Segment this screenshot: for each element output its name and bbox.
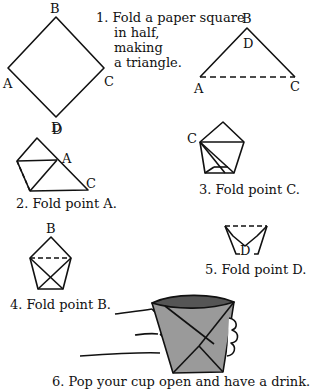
label-square-a: A (3, 77, 12, 90)
step2-caption: 2. Fold point A. (16, 197, 117, 211)
step1-line4: a triangle. (96, 55, 211, 70)
label-triangle-d: D (243, 37, 253, 50)
label-triangle-a: A (194, 82, 203, 95)
step5-caption: 5. Fold point D. (205, 263, 306, 277)
label-triangle-c: C (290, 80, 300, 93)
step3-figure (200, 122, 244, 173)
label-step2-a: A (62, 152, 71, 165)
label-step2-d: D (52, 123, 62, 136)
step1-caption: 1. Fold a paper square in half, making a… (96, 10, 211, 70)
label-step4-b: B (46, 222, 56, 235)
label-step5-d: D (240, 244, 250, 257)
label-triangle-b: B (242, 12, 252, 25)
label-square-b: B (50, 2, 60, 15)
paper-square (8, 17, 104, 117)
step1-line2: in half, (96, 25, 211, 40)
step1-line1: Fold a paper square (113, 10, 245, 25)
step1-number: 1. (96, 10, 108, 25)
step4-figure (30, 237, 71, 289)
step6-caption: 6. Pop your cup open and have a drink. (52, 375, 310, 389)
step4-caption: 4. Fold point B. (10, 298, 111, 312)
label-step3-c: C (187, 132, 197, 145)
step1-line3: making (96, 40, 211, 55)
label-step2-c: C (86, 177, 96, 190)
label-square-c: C (104, 75, 114, 88)
step3-caption: 3. Fold point C. (199, 183, 300, 197)
step2-figure (17, 138, 88, 191)
